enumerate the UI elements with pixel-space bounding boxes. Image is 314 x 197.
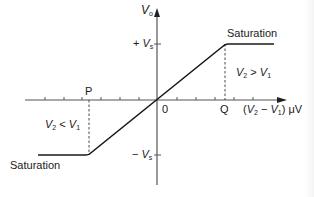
x-axis-label: (V2 − V1) μV bbox=[243, 104, 302, 116]
y-axis-label: Vo bbox=[141, 4, 153, 17]
saturation-lower-label: Saturation bbox=[10, 160, 60, 171]
point-q-label: Q bbox=[220, 104, 229, 115]
condition-upper-label: V2 > V1 bbox=[236, 67, 271, 79]
page-edge bbox=[304, 0, 314, 197]
transfer-characteristic-diagram: Vo + Vs − Vs Saturation Saturation V2 > … bbox=[0, 0, 314, 197]
positive-saturation-label: + Vs bbox=[133, 38, 153, 50]
origin-label: 0 bbox=[162, 104, 168, 115]
point-p-label: P bbox=[85, 86, 92, 97]
y-axis-arrow-icon bbox=[154, 8, 160, 17]
saturation-upper-label: Saturation bbox=[227, 28, 277, 39]
condition-lower-label: V2 < V1 bbox=[45, 119, 80, 131]
negative-saturation-label: − Vs bbox=[132, 149, 152, 161]
